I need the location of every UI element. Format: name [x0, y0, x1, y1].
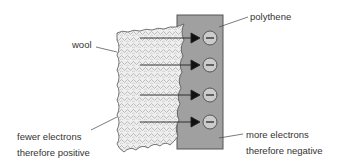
polythene-state-line2: therefore negative	[246, 145, 323, 157]
electron-icon	[203, 115, 217, 129]
wool-state-line1: fewer electrons	[17, 131, 81, 143]
electron-icon	[203, 88, 217, 102]
wool-piece	[117, 24, 184, 152]
polythene-label: polythene	[250, 11, 291, 23]
electron-icon	[203, 58, 217, 72]
wool-label: wool	[72, 39, 92, 51]
wool-state-line2: therefore positive	[17, 147, 90, 159]
polythene-state-line1: more electrons	[246, 129, 309, 141]
electron-icon	[203, 31, 217, 45]
